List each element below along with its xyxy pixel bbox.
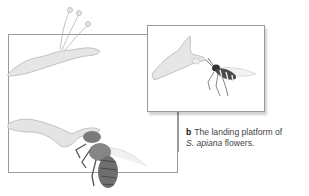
inset-illustration-frame bbox=[147, 25, 265, 112]
caption-tail: flowers. bbox=[225, 138, 255, 148]
wasp-approaching-flower bbox=[148, 26, 266, 113]
caption-text: The landing platform of bbox=[194, 127, 282, 137]
panel-label: b bbox=[186, 127, 191, 137]
figure-caption: bThe landing platform of S. apiana flowe… bbox=[186, 127, 282, 148]
sage-flower-with-stamens bbox=[8, 8, 100, 77]
species-name: S. apiana bbox=[186, 138, 222, 148]
bee-on-flower bbox=[8, 119, 146, 188]
